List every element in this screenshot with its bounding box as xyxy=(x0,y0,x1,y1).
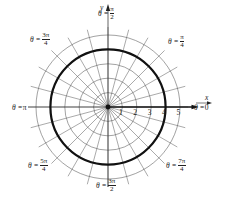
angle-fraction: 3π2 xyxy=(108,178,116,194)
radial-tick-label: 1 xyxy=(119,109,123,117)
angle-fraction: π2 xyxy=(110,6,115,22)
radial-tick-label: 5 xyxy=(177,109,181,117)
theta-equals: θ = xyxy=(12,104,23,112)
angular-gridline xyxy=(108,50,165,107)
theta-equals: θ = xyxy=(98,10,109,18)
angle-label-theta-5pi-4: θ = 5π4 xyxy=(28,158,48,174)
angle-label-theta-0: θ = 0 xyxy=(194,104,208,112)
angle-label-theta-pi-4: θ = π4 xyxy=(168,34,184,50)
fraction-denominator: 2 xyxy=(110,14,114,21)
fraction-denominator: 2 xyxy=(110,186,114,193)
angular-gridline xyxy=(68,38,108,107)
theta-equals: θ = xyxy=(28,162,39,170)
angle-label-theta-3pi-2: θ = 3π2 xyxy=(96,178,116,194)
theta-equals: θ = xyxy=(168,38,179,46)
angle-value: 0 xyxy=(205,104,209,112)
theta-equals: θ = xyxy=(166,162,177,170)
angular-gridline xyxy=(51,50,108,107)
angular-gridline xyxy=(39,67,108,107)
fraction-denominator: 4 xyxy=(180,42,184,49)
angle-fraction: 5π4 xyxy=(40,158,48,174)
angular-gridline xyxy=(87,30,108,107)
fraction-denominator: 4 xyxy=(42,166,46,173)
origin-point xyxy=(106,105,111,110)
radial-tick-label: 4 xyxy=(162,109,166,117)
fraction-denominator: 4 xyxy=(44,40,48,47)
angular-gridline xyxy=(39,107,108,147)
angular-gridline xyxy=(87,107,108,184)
x-axis-label: x xyxy=(205,94,208,102)
angular-gridline xyxy=(108,38,148,107)
angular-gridline xyxy=(68,107,108,176)
angular-gridline xyxy=(108,67,177,107)
angular-gridline xyxy=(51,107,108,164)
theta-equals: θ = xyxy=(194,104,205,112)
radial-tick-label: 2 xyxy=(133,109,137,117)
angular-gridline xyxy=(108,107,148,176)
angle-value: π xyxy=(23,104,27,112)
angle-label-theta-pi-2: θ = π2 xyxy=(98,6,114,22)
theta-equals: θ = xyxy=(30,36,41,44)
angular-gridline xyxy=(108,30,129,107)
angular-gridline xyxy=(108,86,185,107)
angle-label-theta-pi: θ = π xyxy=(12,104,26,112)
polar-graph: 12345xyθ = 0θ = π4θ = π2θ = 3π4θ = πθ = … xyxy=(0,0,228,209)
angular-gridline xyxy=(31,86,108,107)
angle-fraction: 3π4 xyxy=(42,32,50,48)
angular-gridline xyxy=(108,107,129,184)
radial-tick-label: 3 xyxy=(148,109,152,117)
theta-equals: θ = xyxy=(96,182,107,190)
angle-fraction: 7π4 xyxy=(178,158,186,174)
angle-label-theta-7pi-4: θ = 7π4 xyxy=(166,158,186,174)
angle-label-theta-3pi-4: θ = 3π4 xyxy=(30,32,50,48)
angle-fraction: π4 xyxy=(180,34,185,50)
angular-gridline xyxy=(31,107,108,128)
fraction-denominator: 4 xyxy=(180,166,184,173)
